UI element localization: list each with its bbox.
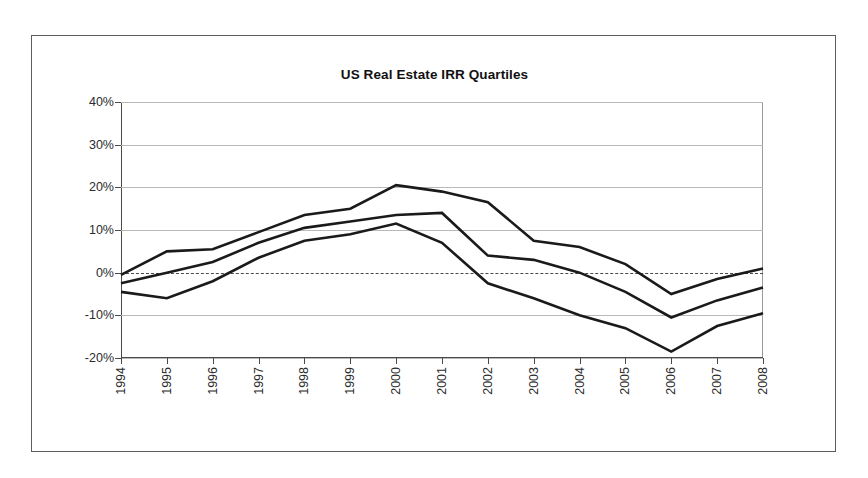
y-tick-label: 30% — [89, 138, 114, 152]
figure-frame: US Real Estate IRR Quartiles 40%30%20%10… — [31, 35, 836, 452]
series-lines — [121, 102, 763, 358]
x-tick-label: 2003 — [527, 367, 541, 395]
chart-page: US Real Estate IRR Quartiles 40%30%20%10… — [0, 0, 868, 478]
x-axis-labels: 1994199519961997199819992000200120022003… — [121, 367, 763, 437]
x-tick-mark — [213, 358, 214, 364]
y-tick-label: 10% — [89, 223, 114, 237]
x-axis-ticks — [121, 358, 763, 364]
series-line — [121, 213, 763, 318]
x-tick-mark — [304, 358, 305, 364]
x-tick-mark — [396, 358, 397, 364]
x-tick-label: 2008 — [756, 367, 770, 395]
x-tick-label: 1996 — [206, 367, 220, 395]
series-line — [121, 224, 763, 352]
y-axis-labels: 40%30%20%10%0%-10%-20% — [52, 102, 114, 358]
x-tick-label: 1997 — [252, 367, 266, 395]
x-tick-mark — [259, 358, 260, 364]
x-tick-label: 1994 — [114, 367, 128, 395]
x-tick-label: 2005 — [618, 367, 632, 395]
x-tick-label: 2000 — [389, 367, 403, 395]
x-tick-mark — [350, 358, 351, 364]
x-tick-mark — [763, 358, 764, 364]
x-tick-mark — [488, 358, 489, 364]
x-tick-label: 1995 — [160, 367, 174, 395]
x-tick-label: 2004 — [573, 367, 587, 395]
x-tick-mark — [580, 358, 581, 364]
y-tick-label: 20% — [89, 180, 114, 194]
x-tick-mark — [534, 358, 535, 364]
x-tick-label: 1998 — [297, 367, 311, 395]
x-tick-label: 2007 — [710, 367, 724, 395]
x-tick-mark — [671, 358, 672, 364]
x-tick-label: 2001 — [435, 367, 449, 395]
x-tick-label: 1999 — [343, 367, 357, 395]
y-tick-label: 40% — [89, 95, 114, 109]
y-tick-label: -10% — [85, 308, 114, 322]
x-tick-label: 2002 — [481, 367, 495, 395]
x-tick-mark — [717, 358, 718, 364]
x-tick-label: 2006 — [664, 367, 678, 395]
plot-area — [121, 102, 763, 358]
y-tick-label: 0% — [96, 266, 114, 280]
x-tick-mark — [121, 358, 122, 364]
x-tick-mark — [625, 358, 626, 364]
y-tick-label: -20% — [85, 351, 114, 365]
chart-title: US Real Estate IRR Quartiles — [32, 67, 837, 82]
x-tick-mark — [442, 358, 443, 364]
x-tick-mark — [167, 358, 168, 364]
